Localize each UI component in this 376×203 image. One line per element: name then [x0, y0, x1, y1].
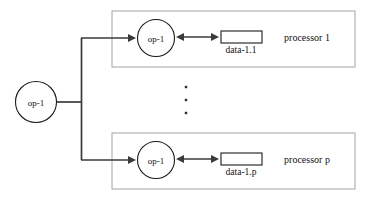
ellipsis-dot-1 — [185, 86, 187, 88]
ellipsis-dot-2 — [185, 99, 187, 101]
fanout-connector — [57, 38, 82, 160]
processor-group-p: op-1 data-1.p processor p — [81, 133, 355, 189]
arrowhead-icon — [128, 34, 136, 42]
processor-group-label-1: processor 1 — [284, 32, 330, 43]
arrowhead-left-icon — [176, 33, 184, 41]
data-box-label-p: data-1.p — [226, 167, 257, 177]
operator-node-p[interactable]: op-1 — [138, 142, 175, 179]
arrowhead-left-icon — [176, 155, 184, 163]
diagram-canvas: op-1 data-1.1 processor 1 op-1 — [0, 0, 376, 203]
operator-node-label-1: op-1 — [148, 34, 165, 44]
data-item-p[interactable]: data-1.p — [221, 153, 262, 177]
processor-group-label-p: processor p — [284, 154, 330, 165]
source-operator-node[interactable]: op-1 — [16, 82, 57, 123]
processor-group-1: op-1 data-1.1 processor 1 — [81, 11, 355, 67]
vertical-ellipsis — [185, 86, 187, 114]
data-box-1 — [221, 31, 262, 43]
operator-node-label-p: op-1 — [148, 156, 165, 166]
data-box-p — [221, 153, 262, 165]
data-item-1[interactable]: data-1.1 — [221, 31, 262, 55]
node-data-link-1 — [176, 33, 219, 41]
diagram-root: op-1 data-1.1 processor 1 op-1 — [0, 0, 376, 203]
operator-node-1[interactable]: op-1 — [138, 20, 175, 57]
ellipsis-dot-3 — [185, 112, 187, 114]
incoming-arrow-p — [81, 156, 136, 164]
arrowhead-icon — [128, 156, 136, 164]
arrowhead-right-icon — [211, 155, 219, 163]
node-data-link-p — [176, 155, 219, 163]
arrowhead-right-icon — [211, 33, 219, 41]
data-box-label-1: data-1.1 — [226, 45, 257, 55]
source-operator-label: op-1 — [28, 98, 45, 108]
incoming-arrow-1 — [81, 34, 136, 42]
